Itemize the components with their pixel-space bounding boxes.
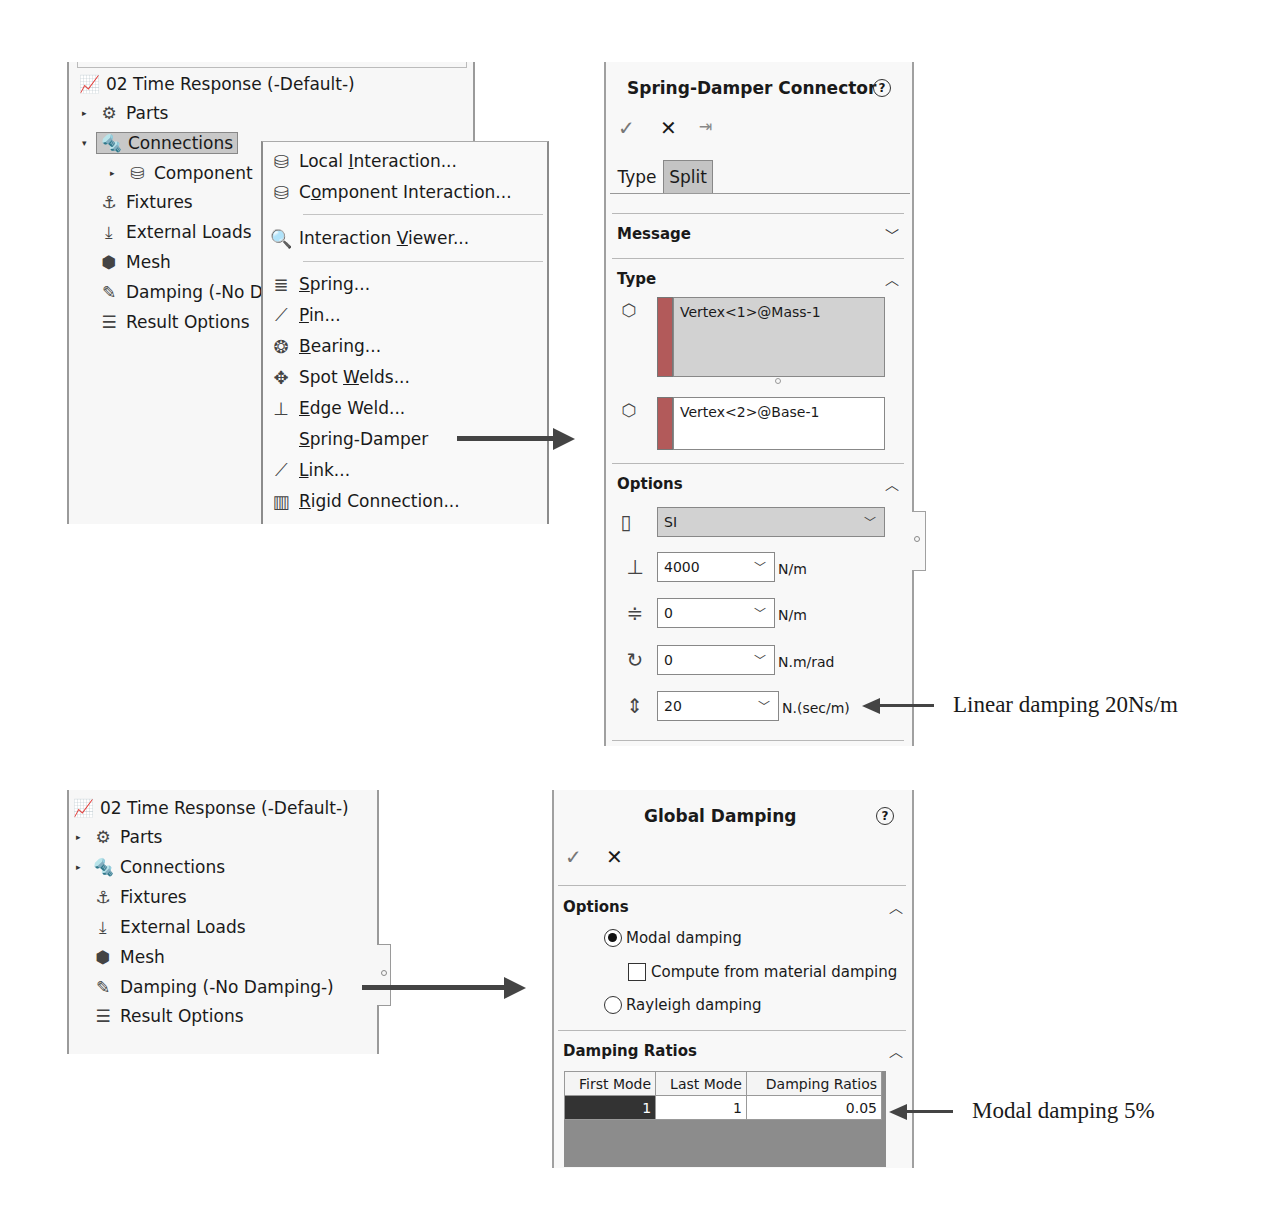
- menu-item-bearing[interactable]: ❂ Bearing...: [263, 331, 381, 361]
- menu-item-spring-damper[interactable]: Spring-Damper: [263, 424, 428, 454]
- section-options-header[interactable]: Options: [617, 475, 683, 493]
- tree-item-mesh[interactable]: ⬢ Mesh: [96, 248, 171, 276]
- tree-item-external-loads[interactable]: ⤓ External Loads: [96, 218, 252, 246]
- expand-caret-icon[interactable]: ▸: [76, 862, 90, 872]
- mesh-icon: ⬢: [90, 947, 116, 967]
- connections-context-menu: ⛁ Local Interaction... ⛁ Component Inter…: [261, 141, 549, 524]
- tree-item-fixtures[interactable]: ⚓ Fixtures: [96, 188, 193, 216]
- column-header-first-mode[interactable]: First Mode: [565, 1072, 656, 1096]
- section-divider: [612, 258, 904, 259]
- damping-icon: ✎: [90, 977, 116, 997]
- compute-from-material-checkbox[interactable]: [628, 963, 646, 981]
- cell-damping-ratio[interactable]: 0.05: [746, 1096, 881, 1120]
- modal-damping-radio[interactable]: [604, 929, 622, 947]
- rayleigh-damping-radio[interactable]: [604, 996, 622, 1014]
- chevron-down-icon[interactable]: ﹀: [885, 225, 899, 245]
- link-icon: ⟋: [263, 459, 299, 481]
- tree-item-parts[interactable]: ▸ ⚙ Parts: [76, 823, 162, 851]
- selection-box-1[interactable]: Vertex<1>@Mass-1: [673, 297, 885, 377]
- tree-item-result-options[interactable]: ☰ Result Options: [96, 308, 250, 336]
- tree-splitter-handle[interactable]: [381, 970, 387, 976]
- linear-damping-combo[interactable]: 20 ﹀: [657, 691, 779, 721]
- edge-weld-icon: ⊥: [263, 398, 299, 419]
- fixtures-icon: ⚓: [90, 887, 116, 907]
- tree-root-study[interactable]: 📈 02 Time Response (-Default-): [70, 794, 349, 822]
- tree-item-damping[interactable]: ✎ Damping (-No D: [96, 278, 263, 306]
- connections-icon: 🔩: [101, 133, 122, 153]
- tree-item-component[interactable]: ▸ ⛁ Component: [110, 159, 253, 187]
- ok-checkmark-icon[interactable]: ✓: [618, 116, 635, 140]
- annotation-arrow-linear-damping: [878, 704, 934, 707]
- chevron-down-icon: ﹀: [758, 697, 770, 714]
- selection-color-bar: [657, 397, 673, 450]
- pm-splitter-handle[interactable]: [914, 536, 920, 542]
- modal-damping-label: Modal damping: [626, 929, 742, 947]
- ok-checkmark-icon[interactable]: ✓: [565, 845, 582, 869]
- arrow-head-icon: [504, 977, 526, 999]
- tab-type[interactable]: Type: [610, 160, 664, 194]
- expand-caret-icon[interactable]: ▸: [82, 108, 96, 118]
- tree-item-result-options[interactable]: ☰ Result Options: [90, 1002, 244, 1030]
- menu-item-edge-weld[interactable]: ⊥ Edge Weld...: [263, 393, 405, 423]
- pm-title: Spring-Damper Connector: [627, 78, 876, 98]
- selection-resize-handle[interactable]: [775, 378, 781, 384]
- menu-item-spot-welds[interactable]: ✥ Spot Welds...: [263, 362, 410, 392]
- tree-item-damping[interactable]: ✎ Damping (-No Damping-): [90, 973, 334, 1001]
- column-header-damping-ratios[interactable]: Damping Ratios: [746, 1072, 881, 1096]
- tree-item-connections[interactable]: ▸ 🔩 Connections: [76, 853, 225, 881]
- expand-caret-icon[interactable]: ▸: [110, 168, 124, 178]
- axial-stiffness-combo[interactable]: 4000 ﹀: [657, 552, 775, 582]
- menu-item-interaction-viewer[interactable]: 🔍 Interaction Viewer...: [263, 223, 469, 253]
- tree-item-fixtures[interactable]: ⚓ Fixtures: [90, 883, 187, 911]
- fixtures-icon: ⚓: [96, 192, 122, 212]
- tree-item-mesh[interactable]: ⬢ Mesh: [90, 943, 165, 971]
- section-damping-ratios-header[interactable]: Damping Ratios: [563, 1042, 697, 1060]
- tree-item-external-loads[interactable]: ⤓ External Loads: [90, 913, 246, 941]
- chevron-down-icon: ﹀: [864, 513, 876, 530]
- menu-item-component-interaction[interactable]: ⛁ Component Interaction...: [263, 177, 512, 207]
- mesh-icon: ⬢: [96, 252, 122, 272]
- cell-first-mode[interactable]: 1: [565, 1096, 656, 1120]
- linear-damping-unit: N.(sec/m): [782, 700, 850, 716]
- tree-root-study[interactable]: 📈 02 Time Response (-Default-): [76, 70, 355, 98]
- menu-item-pin[interactable]: ⟋ Pin...: [263, 300, 341, 330]
- study-chart-icon: 📈: [70, 798, 96, 818]
- section-divider: [558, 885, 906, 886]
- expand-caret-icon[interactable]: ▸: [76, 832, 90, 842]
- annotation-arrow-modal-damping: [905, 1110, 953, 1113]
- annotation-linear-damping: Linear damping 20Ns/m: [953, 692, 1178, 718]
- units-select[interactable]: SI ﹀: [657, 507, 885, 537]
- menu-item-link[interactable]: ⟋ Link...: [263, 455, 350, 485]
- chevron-up-icon[interactable]: ︿: [885, 268, 899, 288]
- section-divider: [612, 463, 904, 464]
- help-icon[interactable]: ?: [873, 79, 891, 97]
- cancel-x-icon[interactable]: ✕: [606, 845, 623, 869]
- tree-root-label: 02 Time Response (-Default-): [106, 74, 355, 94]
- menu-item-local-interaction[interactable]: ⛁ Local Interaction...: [263, 146, 457, 176]
- rigid-connection-icon: ▥: [263, 491, 299, 512]
- chevron-up-icon[interactable]: ︿: [889, 1040, 903, 1060]
- tab-split[interactable]: Split: [663, 160, 713, 194]
- cell-last-mode[interactable]: 1: [656, 1096, 747, 1120]
- selection-box-2[interactable]: Vertex<2>@Base-1: [673, 397, 885, 450]
- section-divider: [612, 213, 904, 214]
- section-message-header[interactable]: Message: [617, 225, 691, 243]
- bearing-icon: ❂: [263, 336, 299, 357]
- chevron-up-icon[interactable]: ︿: [885, 473, 899, 493]
- lateral-stiffness-combo[interactable]: 0 ﹀: [657, 598, 775, 628]
- tree-item-connections[interactable]: ▾ 🔩 Connections: [82, 129, 238, 157]
- torsional-stiffness-combo[interactable]: 0 ﹀: [657, 645, 775, 675]
- damping-icon: ✎: [96, 282, 122, 302]
- pushpin-icon[interactable]: ⇥: [699, 117, 712, 136]
- collapse-caret-icon[interactable]: ▾: [82, 138, 96, 148]
- menu-item-spring[interactable]: ≣ Spring...: [263, 269, 370, 299]
- cancel-x-icon[interactable]: ✕: [660, 116, 677, 140]
- menu-item-rigid-connection[interactable]: ▥ Rigid Connection...: [263, 486, 460, 516]
- chevron-up-icon[interactable]: ︿: [889, 896, 903, 916]
- help-icon[interactable]: ?: [876, 807, 894, 825]
- section-options-header[interactable]: Options: [563, 898, 629, 916]
- column-header-last-mode[interactable]: Last Mode: [656, 1072, 747, 1096]
- chevron-down-icon: ﹀: [754, 604, 766, 621]
- tree-item-parts[interactable]: ▸ ⚙ Parts: [82, 99, 168, 127]
- section-type-header[interactable]: Type: [617, 270, 656, 288]
